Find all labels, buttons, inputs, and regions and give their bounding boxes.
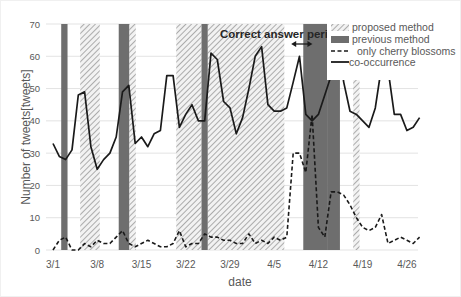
legend-label-proposed: proposed method [352, 21, 434, 33]
band-previous [202, 24, 208, 250]
legend-swatch-previous [331, 36, 349, 43]
band-previous [61, 24, 67, 250]
y-axis-label: Number of tweets[tweets] [19, 69, 33, 204]
x-tick-label: 4/5 [267, 259, 281, 270]
x-axis-label: date [228, 275, 252, 289]
tweets-chart: 010203040506070 3/13/83/153/223/294/54/1… [0, 0, 461, 297]
x-axis-ticks: 3/13/83/153/223/294/54/124/194/26 [46, 259, 417, 270]
y-tick-label: 10 [29, 212, 40, 223]
band-previous [303, 24, 328, 250]
x-tick-label: 4/19 [353, 259, 373, 270]
legend: proposed method previous method only che… [327, 20, 456, 80]
band-proposed [176, 24, 201, 250]
x-tick-label: 4/26 [397, 259, 417, 270]
y-tick-label: 70 [29, 19, 40, 30]
band-proposed [208, 24, 284, 250]
legend-label-previous: previous method [352, 33, 430, 45]
x-tick-label: 3/8 [90, 259, 104, 270]
legend-label-co-occurrence: co-occurrence [349, 56, 416, 68]
x-tick-label: 3/1 [46, 259, 60, 270]
legend-swatch-proposed [331, 24, 349, 31]
band-previous [119, 24, 130, 250]
band-previous [328, 66, 340, 250]
y-tick-label: 0 [35, 245, 40, 256]
x-tick-label: 3/29 [220, 259, 240, 270]
x-tick-label: 4/12 [309, 259, 329, 270]
x-tick-label: 3/15 [132, 259, 152, 270]
annotation-text: Correct answer period [220, 28, 342, 40]
x-tick-label: 3/22 [176, 259, 196, 270]
y-tick-label: 60 [29, 51, 40, 62]
